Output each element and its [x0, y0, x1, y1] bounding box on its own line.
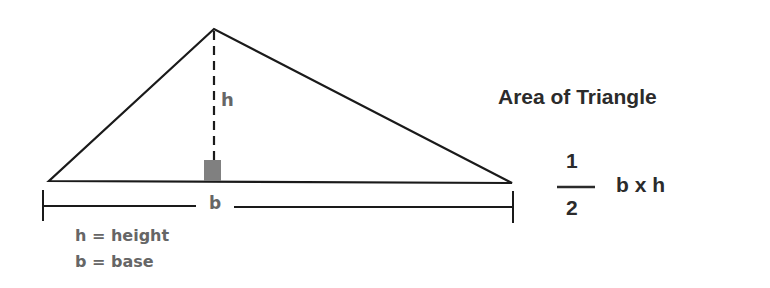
fraction-numerator: 1: [566, 150, 578, 171]
legend-base: b = base: [75, 254, 154, 270]
height-label: h: [221, 91, 234, 109]
diagram-title: Area of Triangle: [498, 86, 657, 107]
legend-height: h = height: [75, 228, 169, 244]
base-label: b: [205, 195, 225, 212]
right-angle-marker: [204, 160, 221, 181]
formula-expression: b x h: [616, 174, 665, 195]
triangle: [49, 29, 512, 183]
fraction-denominator: 2: [566, 197, 578, 218]
